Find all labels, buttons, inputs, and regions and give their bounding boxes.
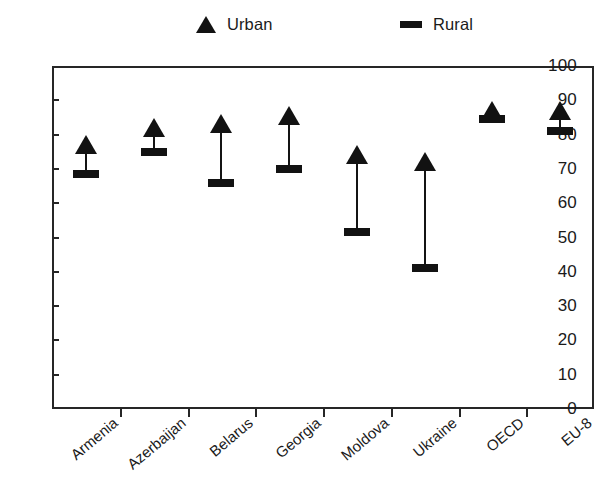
rural-marker xyxy=(141,148,167,156)
urban-marker xyxy=(278,106,300,125)
range-connector-line xyxy=(424,162,426,268)
legend-label-rural: Rural xyxy=(433,15,473,34)
y-axis-tick-mark xyxy=(52,339,59,341)
y-axis-tick-mark xyxy=(52,134,59,136)
y-axis-tick-mark xyxy=(52,374,59,376)
x-axis-tick-mark xyxy=(188,409,190,417)
y-axis-tick-label: 50 xyxy=(558,228,577,248)
y-axis-tick-label: 20 xyxy=(558,330,577,350)
rural-marker xyxy=(73,170,99,178)
y-axis-tick-mark xyxy=(52,305,59,307)
x-axis-tick-mark xyxy=(391,409,393,417)
rural-marker xyxy=(412,264,438,272)
urban-marker xyxy=(143,118,165,137)
x-axis-tick-mark xyxy=(323,409,325,417)
x-axis-tick-mark xyxy=(255,409,257,417)
y-axis xyxy=(0,0,52,477)
urban-marker xyxy=(549,101,571,120)
y-axis-tick-label: 60 xyxy=(558,193,577,213)
x-axis-tick-mark xyxy=(459,409,461,417)
y-axis-tick-mark xyxy=(52,202,59,204)
y-axis-tick-mark xyxy=(52,271,59,273)
urban-marker xyxy=(210,114,232,133)
y-axis-tick-label: 10 xyxy=(558,365,577,385)
x-axis-tick-mark xyxy=(526,409,528,417)
y-axis-tick-label: 100 xyxy=(548,56,577,76)
chart-legend: Urban Rural xyxy=(0,8,585,44)
legend-item-urban: Urban xyxy=(196,11,272,37)
urban-marker xyxy=(481,101,503,120)
rural-marker xyxy=(208,179,234,187)
y-axis-tick-label: 40 xyxy=(558,262,577,282)
range-connector-line xyxy=(356,155,358,232)
y-axis-tick-label: 70 xyxy=(558,159,577,179)
urban-marker xyxy=(75,135,97,154)
y-axis-tick-label: 0 xyxy=(567,399,577,419)
y-axis-tick-mark xyxy=(52,237,59,239)
plot-area xyxy=(52,66,594,409)
x-axis-tick-mark xyxy=(120,409,122,417)
legend-item-rural: Rural xyxy=(400,11,473,37)
legend-label-urban: Urban xyxy=(227,15,272,34)
rural-marker xyxy=(547,127,573,135)
dash-icon xyxy=(400,21,422,28)
y-axis-tick-label: 30 xyxy=(558,296,577,316)
y-axis-tick-mark xyxy=(52,168,59,170)
rural-marker xyxy=(276,165,302,173)
urban-marker xyxy=(346,145,368,164)
y-axis-tick-mark xyxy=(52,99,59,101)
urban-marker xyxy=(414,152,436,171)
rural-marker xyxy=(344,228,370,236)
triangle-up-icon xyxy=(196,16,216,33)
